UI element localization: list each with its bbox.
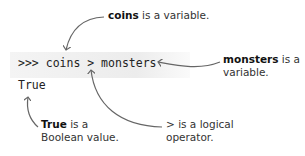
- arrows: [0, 0, 305, 156]
- arrow-operator: [91, 70, 162, 127]
- arrow-coins: [66, 17, 104, 50]
- arrow-monsters: [158, 62, 220, 67]
- arrow-true: [27, 97, 38, 127]
